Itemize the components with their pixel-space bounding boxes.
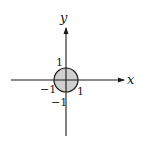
y-axis-label: y [59,10,68,25]
tick-x-pos: 1 [77,85,84,98]
tick-y-pos: 1 [56,56,63,69]
coordinate-diagram: x y 1 −1 1 −1 [0,0,146,145]
tick-x-neg: −1 [40,83,56,96]
tick-y-neg: −1 [51,96,67,109]
x-axis-label: x [127,72,135,87]
